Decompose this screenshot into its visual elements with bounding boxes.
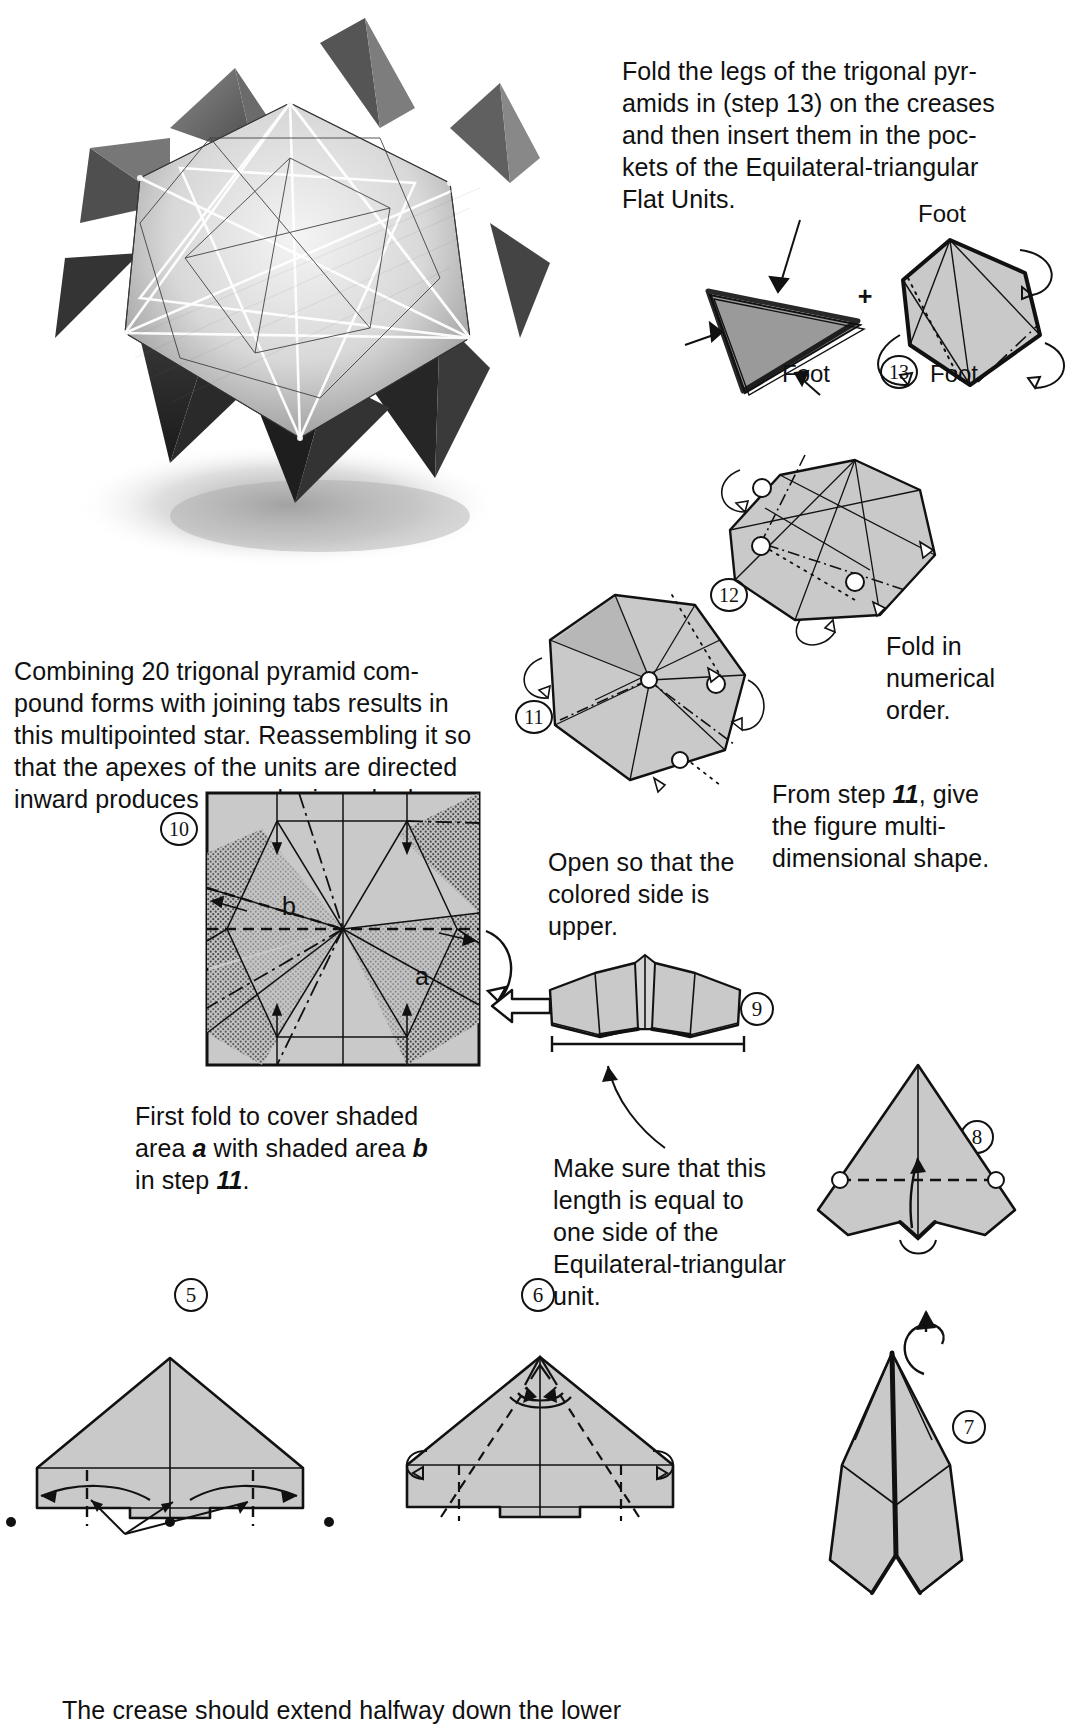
inline-area-a: a [192,1134,206,1162]
label-foot-bottom-right: Foot [930,360,978,388]
caption-make-sure-text: Make sure that this length is equal to o… [553,1154,786,1310]
step-number-6: 6 [521,1278,555,1312]
step-number-9: 9 [740,992,774,1026]
label-foot-bottom-left: Foot [782,360,830,388]
step-number-5: 5 [174,1278,208,1312]
plus-sign: + [858,282,873,310]
paragraph-combining-text: Combining 20 trigonal pyramid com- pound… [14,657,471,813]
label-foot-top-right: Foot [918,200,966,228]
step-number-13: 13 [880,355,918,389]
paragraph-combining: Combining 20 trigonal pyramid com- pound… [14,655,514,815]
note-fold-numerical-order-text: Fold in numerical order. [886,632,995,724]
stellated-star-illustration [20,8,580,588]
inline-step-11-b: 11 [216,1166,242,1194]
inline-area-b: b [413,1134,428,1162]
instruction-fold-legs-text: Fold the legs of the trigonal pyr- amids… [622,57,995,213]
step-number-11: 11 [515,700,553,734]
step-number-10: 10 [160,812,198,846]
instruction-fold-legs: Fold the legs of the trigonal pyr- amids… [622,55,1077,215]
step-8-diagram [800,1060,1030,1260]
area-label-a: a [415,962,429,990]
note-open-colored-side: Open so that the colored side is upper. [548,846,788,942]
step-7-diagram [800,1345,990,1610]
area-label-b: b [282,892,296,920]
hollow-left-arrow-icon [490,988,552,1024]
step-6-diagram [375,1345,705,1530]
measurement-bar-step9 [548,1032,748,1054]
step-5-diagram [5,1350,335,1535]
step-13-diagram: + [660,195,1085,395]
step-11-diagram [520,580,785,795]
caption-first-fold: First fold to cover shaded area a with s… [135,1100,535,1196]
inline-step-11-a: 11 [892,780,918,808]
step-10-diagram: b a [207,793,479,1065]
origami-instruction-page: Fold the legs of the trigonal pyr- amids… [0,0,1085,1728]
note-fold-numerical-order: Fold in numerical order. [886,630,1076,726]
note-open-colored-side-text: Open so that the colored side is upper. [548,848,734,940]
caption-bottom-crease: The crease should extend halfway down th… [62,1694,762,1726]
pointer-arrow-to-step9 [560,1060,670,1150]
note-from-step-11: From step 11, give the figure multi- dim… [772,778,1072,874]
